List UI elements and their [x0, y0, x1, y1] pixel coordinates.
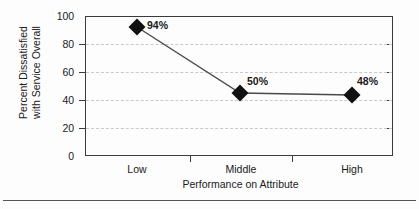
x-tick-mark-1	[190, 156, 191, 162]
data-label-low: 94%	[147, 20, 168, 31]
x-axis-title: Performance on Attribute	[182, 178, 298, 190]
gridline-20	[86, 128, 392, 129]
bottom-divider	[3, 200, 416, 201]
gridline-40	[86, 100, 392, 101]
gridline-80	[86, 44, 392, 45]
y-tick-label-80: 80	[34, 39, 74, 50]
x-tick-label-high: High	[312, 163, 392, 175]
x-tick-label-middle: Middle	[201, 163, 281, 175]
data-label-high: 48%	[357, 76, 378, 87]
x-tick-label-low: Low	[97, 163, 177, 175]
data-label-middle: 50%	[247, 76, 268, 87]
y-tick-label-20: 20	[34, 123, 74, 134]
x-tick-mark-2	[292, 156, 293, 162]
y-tick-label-60: 60	[34, 67, 74, 78]
x-axis-title-wrap: Performance on Attribute	[0, 178, 419, 190]
gridline-60	[86, 72, 392, 73]
plot-area	[85, 16, 393, 156]
y-tick-label-40: 40	[34, 95, 74, 106]
y-tick-label-0: 0	[34, 151, 74, 162]
chart-figure: Percent Dissatisfied with Service Overal…	[0, 0, 419, 209]
y-axis-title-line1: Percent Dissatisfied	[17, 3, 30, 143]
y-tick-label-100: 100	[34, 11, 74, 22]
